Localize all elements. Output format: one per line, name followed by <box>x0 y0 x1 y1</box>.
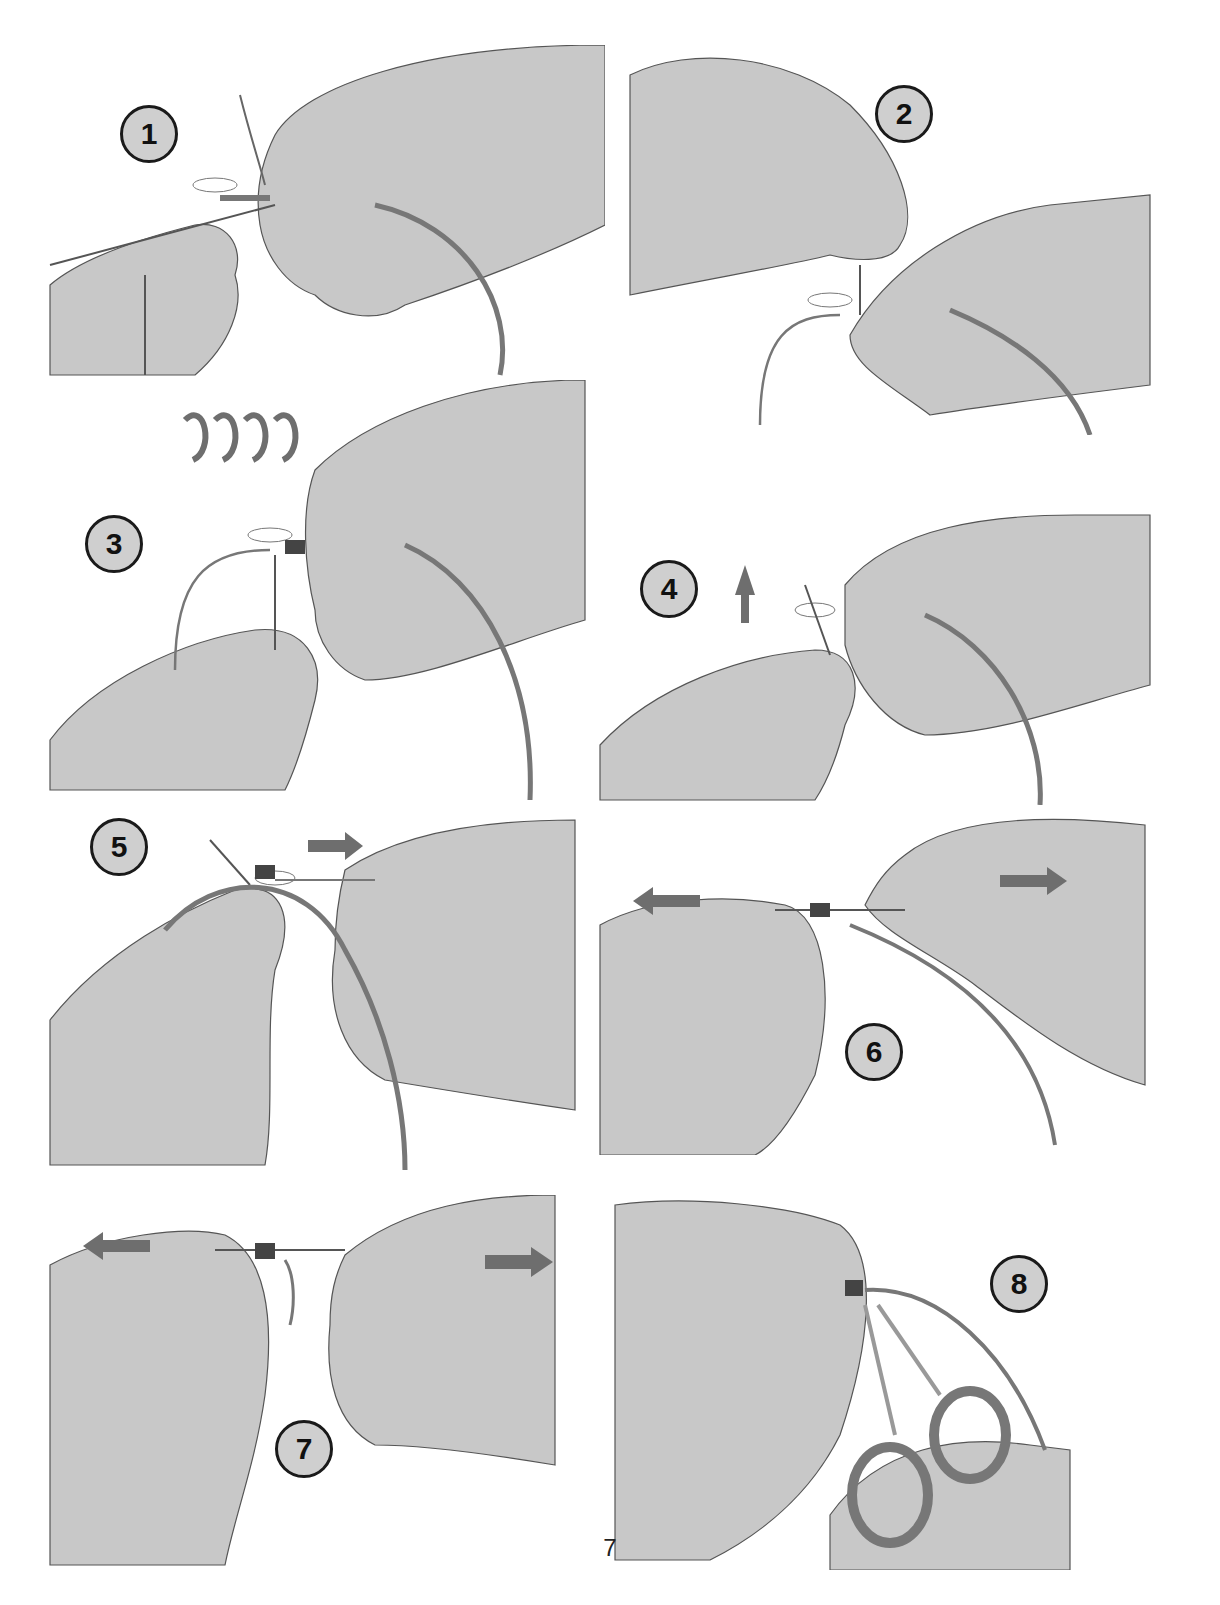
hands-pulling-line-apart-illustration <box>595 815 1175 1155</box>
step-4-illustration: 4 <box>595 485 1175 805</box>
step-number-badge: 1 <box>120 105 178 163</box>
step-1-illustration: 1 <box>45 45 605 385</box>
wrap-arrows-icon <box>185 415 295 460</box>
hands-passing-tag-end-illustration <box>595 485 1175 805</box>
step-number-badge: 3 <box>85 515 143 573</box>
step-6-illustration: 6 <box>595 815 1175 1155</box>
step-7-illustration: 7 <box>45 1195 605 1570</box>
step-3-illustration: 3 <box>45 380 605 800</box>
step-number-badge: 2 <box>875 85 933 143</box>
step-number-badge: 6 <box>845 1023 903 1081</box>
hands-seating-knot-illustration <box>45 1195 605 1570</box>
arrow-up-icon <box>735 565 755 595</box>
step-2-illustration: 2 <box>610 45 1170 435</box>
step-number-badge: 4 <box>640 560 698 618</box>
step-number-badge: 8 <box>990 1255 1048 1313</box>
hands-holding-line-illustration <box>45 45 605 385</box>
hands-wrapping-line-illustration <box>45 380 605 800</box>
step-8-illustration: 8 <box>610 1195 1170 1570</box>
page-number: 7 <box>0 1534 1220 1562</box>
arrow-right-icon <box>308 832 363 860</box>
step-number-badge: 7 <box>275 1420 333 1478</box>
hand-trimming-tag-end-illustration <box>610 1195 1170 1570</box>
step-5-illustration: 5 <box>45 810 585 1180</box>
step-number-badge: 5 <box>90 818 148 876</box>
